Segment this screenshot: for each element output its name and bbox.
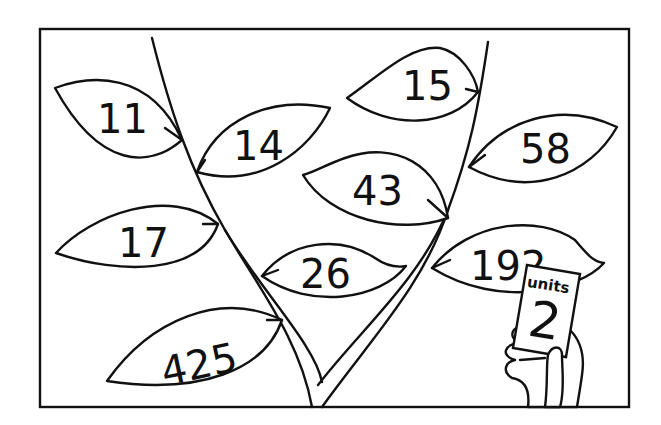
leaf-15: 15 bbox=[347, 48, 478, 121]
leaf-14: 14 bbox=[197, 105, 330, 177]
leaf-17-value: 17 bbox=[118, 220, 169, 266]
number-leaves-illustration: 11 14 17 26 425 15 58 43 bbox=[0, 0, 661, 425]
leaf-43-value: 43 bbox=[352, 168, 403, 214]
leaf-43: 43 bbox=[303, 152, 448, 225]
leaf-15-value: 15 bbox=[402, 63, 453, 109]
leaf-14-value: 14 bbox=[233, 123, 284, 169]
leaf-58-value: 58 bbox=[520, 126, 571, 172]
leaf-26: 26 bbox=[262, 244, 406, 297]
leaf-425: 425 bbox=[107, 308, 282, 394]
leaf-17: 17 bbox=[56, 206, 218, 267]
thumb bbox=[545, 348, 563, 408]
leaf-11: 11 bbox=[55, 80, 182, 157]
leaf-26-value: 26 bbox=[300, 251, 351, 297]
leaf-58: 58 bbox=[469, 115, 617, 182]
leaf-11-value: 11 bbox=[97, 96, 148, 142]
